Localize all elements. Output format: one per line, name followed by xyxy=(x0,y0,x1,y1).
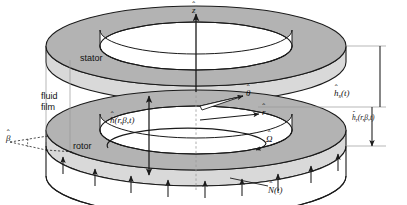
beta-symbol: β xyxy=(6,134,10,143)
rotor-label: rotor xyxy=(73,141,92,151)
thrust-bearing-diagram: stator rotor fluid film z r θ Ω β h(r,β,… xyxy=(0,0,407,205)
omega-label: Ω xyxy=(266,135,273,144)
film-thickness-label: h(r,β,t) xyxy=(110,116,134,125)
beta-label: β xyxy=(6,134,10,143)
r-axis-label: r xyxy=(262,108,266,117)
stator-height-label: hs(t) xyxy=(334,89,350,99)
stator-height-base: h xyxy=(334,89,339,98)
film-thickness-base: h xyxy=(110,116,115,125)
theta-axis-label: θ xyxy=(246,89,250,98)
diagram-canvas xyxy=(0,0,407,205)
rotor-height-label: hr(r,β,t) xyxy=(352,114,375,123)
rotor-height-base: h xyxy=(352,114,356,122)
r-axis-symbol: r xyxy=(262,108,266,117)
load-base: N xyxy=(268,186,274,195)
stator-height-args: (t) xyxy=(341,88,350,98)
load-label: N(t) xyxy=(268,186,283,195)
omega-symbol: Ω xyxy=(266,135,273,144)
theta-axis-symbol: θ xyxy=(246,89,250,98)
load-args: (t) xyxy=(274,185,283,195)
z-axis-symbol: z xyxy=(192,6,196,15)
fluid-film-label-line1: fluid xyxy=(41,91,58,101)
z-axis-label: z xyxy=(192,6,196,15)
film-thickness-args: (r,β,t) xyxy=(115,115,135,125)
rotor-height-args: (r,β,t) xyxy=(358,113,375,122)
fluid-film-label-line2: film xyxy=(41,102,55,112)
stator-label: stator xyxy=(80,53,103,63)
